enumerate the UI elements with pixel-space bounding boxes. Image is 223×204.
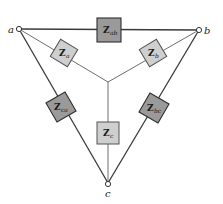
zc-main: Z <box>103 128 110 138</box>
impedance-zab: Z ab <box>97 18 121 42</box>
label-a: a <box>8 24 14 35</box>
zbc-main: Z <box>147 103 154 113</box>
impedance-zca: Z ca <box>46 92 76 122</box>
impedance-zc: Z c <box>97 122 119 144</box>
label-c: c <box>105 188 111 199</box>
terminal-b <box>196 27 201 32</box>
zb-sub: b <box>155 52 159 59</box>
impedance-zb: Z b <box>139 39 166 66</box>
za-sub: a <box>66 52 70 59</box>
impedance-za: Z a <box>50 39 77 66</box>
za-main: Z <box>59 48 66 58</box>
terminal-a <box>16 26 21 31</box>
label-b: b <box>204 25 210 36</box>
zbc-sub: bc <box>154 107 162 114</box>
delta-wye-diagram: Z ab Z a Z b Z ca Z bc Z <box>0 0 223 204</box>
impedance-zbc: Z bc <box>139 93 169 123</box>
zab-main: Z <box>103 25 110 35</box>
zab-sub: ab <box>110 29 118 36</box>
terminal-c <box>105 181 110 186</box>
zb-main: Z <box>148 48 155 58</box>
zca-sub: ca <box>61 106 68 113</box>
zca-main: Z <box>54 102 61 112</box>
